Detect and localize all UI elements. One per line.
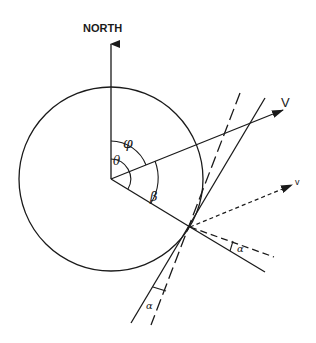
V-label: V [281, 96, 290, 109]
beta-label: β [150, 190, 158, 203]
alpha-label-lower: α [146, 301, 153, 311]
phi-label: φ [123, 136, 133, 150]
v-label: v [295, 178, 300, 187]
alpha-arc-lower [153, 287, 166, 291]
diagram-canvas: NORTH φ θ β α α V v [0, 0, 316, 343]
theta-label: θ [113, 155, 120, 167]
diagram-svg [0, 0, 316, 343]
north-label: NORTH [83, 23, 122, 34]
tangent-line-solid [131, 98, 265, 323]
velocity-vector-V [111, 110, 283, 179]
alpha-label-upper: α [237, 244, 244, 254]
velocity-vector-v [190, 185, 292, 227]
